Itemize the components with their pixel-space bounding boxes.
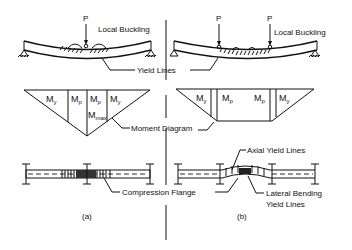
beam-yield-diagram: P Local Buckling Yield Lines P P Local B… xyxy=(0,0,352,250)
moment-my: My xyxy=(279,93,290,104)
moment-mp: Mp xyxy=(254,93,266,104)
load-label-p: P xyxy=(83,14,88,23)
yield-lines-leader xyxy=(102,58,135,70)
support-icon xyxy=(216,164,224,184)
lateral-bending-label: Lateral Bending xyxy=(266,189,322,198)
compression-flange-leader xyxy=(215,178,238,192)
compression-flange-label: Compression Flange xyxy=(122,188,196,197)
moment-mmax: Mmax xyxy=(88,110,107,121)
caption-b: (b) xyxy=(237,212,247,221)
moment-mp: Mp xyxy=(71,94,83,105)
moment-my: My xyxy=(110,94,121,105)
moment-my: My xyxy=(46,94,57,105)
moment-diagram-leader xyxy=(112,118,130,128)
load-label-p-1: P xyxy=(216,14,221,23)
moment-my: My xyxy=(196,93,207,104)
support-icon xyxy=(146,164,154,184)
local-buckling-label: Local Buckling xyxy=(274,28,326,37)
moment-diagram-leader xyxy=(198,122,214,130)
yield-lines-label: Yield Lines xyxy=(137,66,176,75)
caption-a: (a) xyxy=(82,212,92,221)
beam-b-plan xyxy=(174,164,319,184)
yield-lines-leader xyxy=(190,58,218,70)
load-label-p-2: P xyxy=(267,14,272,23)
axial-yield-lines-label: Axial Yield Lines xyxy=(247,146,305,155)
moment-diagram-label: Moment Diagram xyxy=(131,124,193,133)
local-buckling-label: Local Buckling xyxy=(98,25,150,34)
moment-mp: Mp xyxy=(90,94,102,105)
compression-flange-leader xyxy=(104,178,120,192)
beam-a-plan xyxy=(22,164,154,184)
moment-mp: Mp xyxy=(222,93,234,104)
lateral-bending-leader xyxy=(248,176,264,193)
lateral-bending-yield-lines-label: Yield Lines xyxy=(266,200,305,209)
